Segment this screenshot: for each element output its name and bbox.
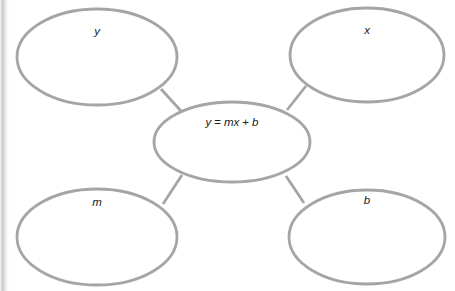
bubble-label-b: b	[364, 194, 371, 206]
bubble-label-x: x	[363, 24, 371, 36]
equation-part-plus: +	[242, 116, 249, 128]
connector-group	[161, 86, 306, 204]
bubble-label-m: m	[92, 196, 102, 208]
bubble-node-center-equation[interactable]: y=mx+b	[154, 102, 310, 182]
equation-part-lhs: y	[205, 116, 213, 128]
equation-part-slope: m	[224, 116, 234, 128]
equation-part-intercept: b	[252, 116, 259, 128]
equation-part-equals: =	[214, 116, 221, 128]
bubble-outline-y	[17, 9, 177, 105]
connector-m-center	[163, 175, 182, 204]
connector-b-center	[286, 176, 304, 203]
concept-map-diagram: y x m b y=mx+b	[0, 0, 455, 291]
bubble-outline-center	[154, 102, 310, 182]
connector-y-center	[161, 89, 181, 111]
center-equation-label: y=mx+b	[205, 116, 260, 128]
equation-part-variable: x	[233, 116, 241, 128]
bubble-node-x[interactable]: x	[290, 8, 444, 102]
bubble-node-m[interactable]: m	[17, 189, 177, 285]
diagram-canvas: y x m b y=mx+b	[0, 0, 455, 291]
connector-x-center	[287, 86, 306, 110]
bubble-node-y[interactable]: y	[17, 9, 177, 105]
bubble-outline-x	[290, 8, 444, 102]
bubble-label-y: y	[93, 25, 101, 37]
bubble-node-b[interactable]: b	[289, 190, 445, 284]
